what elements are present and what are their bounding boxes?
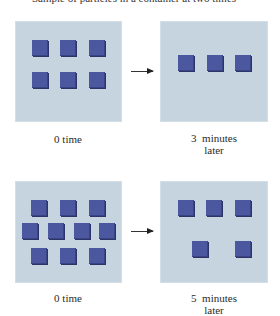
- particle: [22, 223, 38, 239]
- right-arrow-icon: [131, 231, 153, 232]
- particle: [235, 55, 251, 71]
- particle: [99, 223, 115, 239]
- particle: [207, 55, 223, 71]
- particle: [89, 200, 105, 216]
- panel-row2-after: [160, 181, 268, 283]
- particle: [60, 40, 76, 56]
- particle: [235, 241, 251, 257]
- label-row2-after-line2: later: [174, 304, 254, 316]
- particle: [48, 223, 64, 239]
- particle: [235, 200, 251, 216]
- panel-row1-after: [160, 21, 268, 122]
- label-row1-after-line1: 3 minutes: [174, 132, 254, 144]
- particle: [32, 72, 48, 88]
- particle: [178, 200, 194, 216]
- particle: [178, 55, 194, 71]
- particle: [89, 248, 105, 264]
- particle: [89, 72, 105, 88]
- label-row1-before: 0 time: [28, 133, 108, 145]
- clipped-caption: Sample of particles in a container at tw…: [0, 0, 280, 5]
- particle: [74, 223, 90, 239]
- particle: [31, 248, 47, 264]
- particle: [60, 248, 76, 264]
- particle: [192, 241, 208, 257]
- particle: [60, 72, 76, 88]
- label-row1-after-line2: later: [174, 144, 254, 156]
- particle: [206, 200, 222, 216]
- label-row2-before: 0 time: [28, 292, 108, 304]
- particle: [60, 200, 76, 216]
- particle: [31, 200, 47, 216]
- particle: [89, 40, 105, 56]
- label-row2-after-line1: 5 minutes: [174, 292, 254, 304]
- particle: [32, 40, 48, 56]
- right-arrow-icon: [131, 71, 153, 72]
